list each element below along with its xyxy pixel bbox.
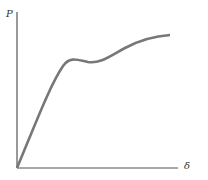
load-deflection-chart — [0, 0, 208, 180]
y-axis-label: P — [6, 8, 13, 19]
x-axis-label: δ — [184, 160, 190, 171]
data-curve — [17, 35, 170, 168]
